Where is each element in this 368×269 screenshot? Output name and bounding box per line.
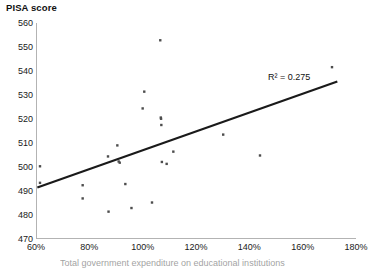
caption-text: Total government expenditure on educatio…	[60, 259, 285, 268]
data-point	[159, 39, 161, 41]
data-point	[161, 161, 163, 163]
data-point	[151, 201, 153, 203]
data-point	[130, 207, 132, 209]
x-tick-label: 60%	[27, 242, 45, 252]
chart-title: PISA score	[6, 2, 57, 13]
y-axis-tick-labels: 470480490500510520530540550560	[0, 23, 33, 239]
data-point	[160, 118, 162, 120]
x-tick-label: 80%	[80, 242, 98, 252]
y-tick-label: 490	[3, 186, 33, 196]
data-point	[107, 210, 109, 212]
x-tick-label: 160%	[291, 242, 314, 252]
y-tick-label: 510	[3, 138, 33, 148]
y-tick-label: 540	[3, 66, 33, 76]
data-point	[116, 144, 118, 146]
data-point	[143, 90, 145, 92]
y-tick-label: 560	[3, 18, 33, 28]
data-point	[331, 66, 333, 68]
caption-clip: Total government expenditure on educatio…	[0, 259, 364, 269]
data-point	[81, 197, 83, 199]
y-tick-label: 550	[3, 42, 33, 52]
y-tick-label: 500	[3, 162, 33, 172]
y-tick-label: 530	[3, 90, 33, 100]
trendline	[37, 82, 337, 188]
data-point	[141, 107, 143, 109]
data-point-markers	[39, 39, 333, 213]
r-squared-annotation: R² = 0.275	[268, 72, 310, 82]
data-point	[124, 183, 126, 185]
trendline-segment	[37, 82, 337, 188]
y-tick-label: 520	[3, 114, 33, 124]
data-point	[107, 155, 109, 157]
data-point	[160, 124, 162, 126]
x-tick-label: 100%	[131, 242, 154, 252]
data-point	[172, 150, 174, 152]
plot-area	[36, 23, 356, 239]
data-point	[39, 165, 41, 167]
data-point	[259, 154, 261, 156]
y-tick-label: 480	[3, 210, 33, 220]
plot-canvas	[36, 23, 356, 239]
data-point	[222, 133, 224, 135]
x-tick-label: 120%	[184, 242, 207, 252]
data-point	[81, 184, 83, 186]
x-axis-tick-labels: 60%80%100%120%140%160%180%	[36, 242, 356, 256]
data-point	[165, 163, 167, 165]
x-tick-label: 140%	[238, 242, 261, 252]
data-point	[39, 182, 41, 184]
x-tick-label: 180%	[344, 242, 367, 252]
data-point	[119, 161, 121, 163]
